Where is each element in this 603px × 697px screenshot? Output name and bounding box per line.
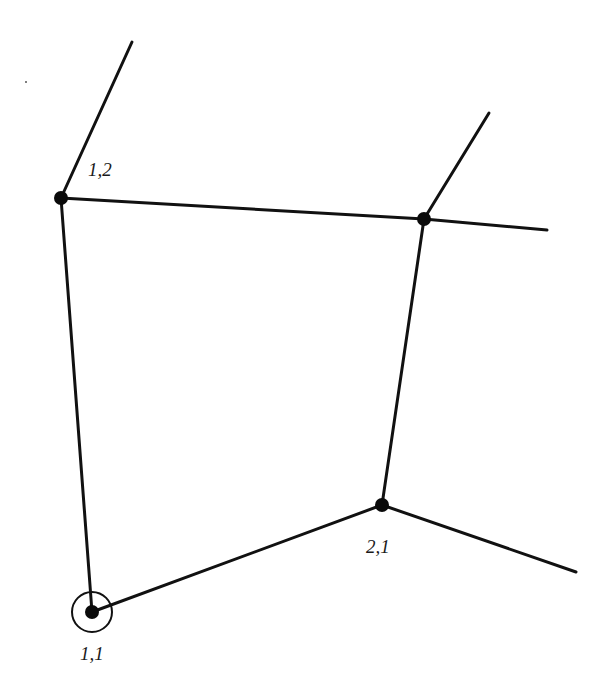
node-2-2 <box>417 212 431 226</box>
stray-mark <box>25 81 27 83</box>
dangling-edge-2-2-right <box>424 219 547 230</box>
node-label-1-2: 1,2 <box>88 159 112 180</box>
dangling-edge-2-2-up <box>424 113 489 219</box>
edge-1-2-to-2-2 <box>61 198 424 219</box>
node-2-1 <box>375 498 389 512</box>
node-label-1-1: 1,1 <box>80 643 104 664</box>
node-1-2 <box>54 191 68 205</box>
dangling-edge-2-1-right <box>382 505 576 572</box>
edge-2-1-to-2-2 <box>382 219 424 505</box>
node-label-2-1: 2,1 <box>366 536 390 557</box>
edge-1-1-to-1-2 <box>61 198 92 612</box>
node-1-1 <box>85 605 99 619</box>
graph-diagram: 1,2 2,1 1,1 <box>0 0 603 697</box>
edge-1-1-to-2-1 <box>92 505 382 612</box>
